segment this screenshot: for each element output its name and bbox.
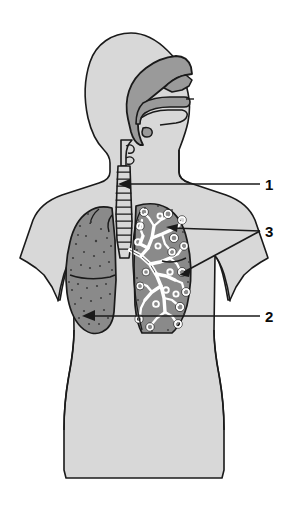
epiglottis	[142, 128, 152, 137]
respiratory-system-figure: 1 3 2	[0, 0, 288, 511]
anatomy-diagram	[0, 0, 288, 511]
right-lung-cutaway-group	[130, 204, 191, 333]
neck-front-line	[179, 150, 190, 183]
label-number-2: 2	[265, 309, 273, 324]
label-number-3: 3	[265, 224, 273, 239]
label-number-1: 1	[265, 177, 273, 192]
